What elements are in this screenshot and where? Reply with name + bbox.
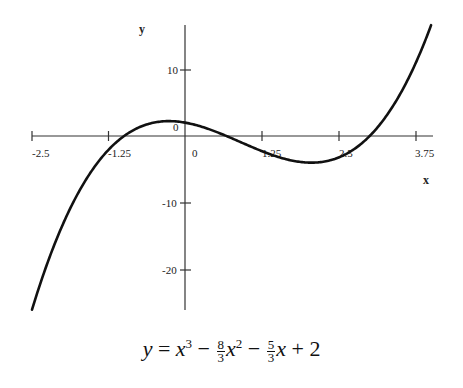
eq-term1-exp: 3 bbox=[186, 336, 193, 351]
eq-equals: = bbox=[158, 336, 170, 361]
x-tick-label: 0 bbox=[192, 147, 198, 159]
eq-term1: x bbox=[176, 336, 186, 361]
eq-const: 2 bbox=[309, 336, 320, 361]
frac-den: 3 bbox=[217, 352, 226, 364]
eq-fraction-2: 53 bbox=[267, 339, 276, 364]
equation-caption: y = x3 − 83x2 − 53x + 2 bbox=[0, 336, 463, 364]
y-tick-label: -20 bbox=[162, 264, 177, 276]
eq-term2: x bbox=[226, 336, 236, 361]
eq-term3: x bbox=[276, 336, 286, 361]
eq-lhs: y bbox=[143, 336, 153, 361]
frac-den: 3 bbox=[267, 352, 276, 364]
y-axis-title: y bbox=[139, 22, 145, 36]
eq-minus1: − bbox=[198, 336, 210, 361]
eq-fraction-1: 83 bbox=[217, 339, 226, 364]
x-tick-label: -1.25 bbox=[108, 147, 131, 159]
y-tick-label: 10 bbox=[167, 64, 179, 76]
cubic-curve bbox=[32, 25, 431, 310]
eq-minus2: − bbox=[248, 336, 260, 361]
x-axis-title: x bbox=[423, 173, 429, 187]
y-tick-label: -10 bbox=[162, 197, 177, 209]
x-tick-label: -2.5 bbox=[32, 147, 50, 159]
eq-plus: + bbox=[291, 336, 303, 361]
x-tick-label: 3.75 bbox=[415, 147, 435, 159]
eq-term2-exp: 2 bbox=[236, 336, 243, 351]
function-plot: -2.5 -1.25 0 1.25 2.5 3.75 10 0 -10 -20 … bbox=[0, 0, 463, 388]
